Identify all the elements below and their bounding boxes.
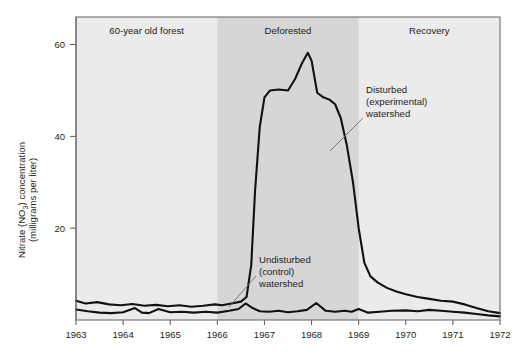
annotation-undisturbed-line3: watershed (258, 278, 303, 289)
annotation-disturbed-line1: Disturbed (366, 84, 407, 95)
annotation-disturbed-line3: watershed (365, 108, 410, 119)
y-axis-title-units: (milligrams per liter) (27, 158, 38, 242)
y-tick-label-60: 60 (54, 39, 65, 50)
phase-label-deforested: Deforested (265, 25, 312, 36)
x-tick-label-1965: 1965 (160, 329, 181, 340)
x-tick-label-1966: 1966 (207, 329, 228, 340)
y-axis-title-part1: Nitrate (NO (16, 209, 27, 258)
x-tick-label-1964: 1964 (113, 329, 134, 340)
x-tick-label-1968: 1968 (301, 329, 322, 340)
annotation-undisturbed-line2: (control) (259, 266, 294, 277)
chart-canvas: 60-year old forest Deforested Recovery N… (0, 0, 513, 364)
y-axis-title-part2: ) concentration (16, 142, 27, 205)
y-axis-title: Nitrate (NO3) concentration (milligrams … (16, 142, 38, 258)
annotation-undisturbed-line1: Undisturbed (259, 254, 311, 265)
annotation-disturbed-line2: (experimental) (366, 96, 427, 107)
x-tick-label-1970: 1970 (395, 329, 416, 340)
x-tick-label-1967: 1967 (254, 329, 275, 340)
x-tick-label-1963: 1963 (65, 329, 86, 340)
nitrate-concentration-chart: 60-year old forest Deforested Recovery N… (0, 0, 513, 364)
y-tick-label-20: 20 (54, 223, 65, 234)
y-tick-label-40: 40 (54, 131, 65, 142)
phase-label-forest: 60-year old forest (109, 25, 184, 36)
x-tick-label-1972: 1972 (489, 329, 510, 340)
x-tick-label-1971: 1971 (442, 329, 463, 340)
x-tick-label-1969: 1969 (348, 329, 369, 340)
phase-label-recovery: Recovery (409, 25, 450, 36)
